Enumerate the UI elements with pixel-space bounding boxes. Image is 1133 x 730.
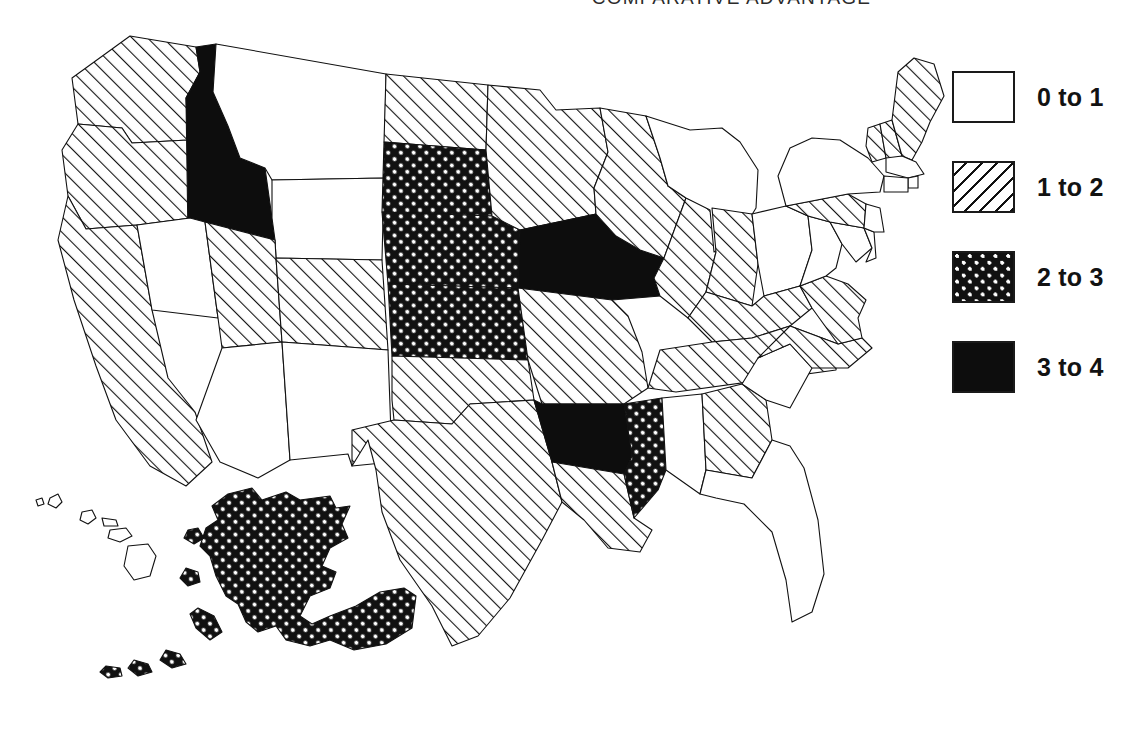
state-ks[interactable] xyxy=(388,284,528,360)
state-mo[interactable] xyxy=(518,288,648,404)
state-ak-aleutians-3[interactable] xyxy=(128,660,152,676)
map-legend: 0 to 1 1 to 2 2 to 3 3 to 4 xyxy=(952,52,1133,412)
legend-label-1: 1 to 2 xyxy=(1037,173,1104,202)
state-hi-big-island[interactable] xyxy=(124,544,156,580)
legend-label-3: 3 to 4 xyxy=(1037,353,1104,382)
legend-swatch-crosshatch xyxy=(952,251,1015,303)
state-ma[interactable] xyxy=(886,156,924,178)
state-me[interactable] xyxy=(892,58,944,160)
state-ut[interactable] xyxy=(205,222,282,348)
state-ak-aleutians-5[interactable] xyxy=(180,568,200,586)
state-co[interactable] xyxy=(276,258,388,350)
state-hi-kauai[interactable] xyxy=(48,494,62,508)
state-sd[interactable] xyxy=(382,142,492,216)
state-nd[interactable] xyxy=(384,74,488,150)
state-hi-maui[interactable] xyxy=(108,528,132,542)
legend-item-0[interactable]: 0 to 1 xyxy=(952,52,1133,142)
state-ne[interactable] xyxy=(382,212,520,288)
legend-item-3[interactable]: 3 to 4 xyxy=(952,322,1133,412)
legend-item-1[interactable]: 1 to 2 xyxy=(952,142,1133,232)
legend-item-2[interactable]: 2 to 3 xyxy=(952,232,1133,322)
state-mn[interactable] xyxy=(486,85,608,230)
choropleth-map xyxy=(0,0,960,730)
legend-swatch-solid xyxy=(952,341,1015,393)
state-ak-aleutians-1[interactable] xyxy=(190,608,222,640)
legend-swatch-diagonal xyxy=(952,161,1015,213)
state-hi-oahu[interactable] xyxy=(80,510,96,524)
state-ct[interactable] xyxy=(884,176,908,192)
state-ak-aleutians-4[interactable] xyxy=(100,666,122,678)
state-ak-aleutians-2[interactable] xyxy=(160,650,186,668)
legend-swatch-blank xyxy=(952,71,1015,123)
state-wy[interactable] xyxy=(272,178,384,260)
state-hi-molokai[interactable] xyxy=(102,518,118,526)
state-nj[interactable] xyxy=(864,204,884,232)
states-layer xyxy=(36,36,944,678)
legend-label-2: 2 to 3 xyxy=(1037,263,1104,292)
state-ri[interactable] xyxy=(908,176,918,188)
state-hi-dot[interactable] xyxy=(36,498,44,506)
map-svg xyxy=(0,0,960,730)
legend-label-0: 0 to 1 xyxy=(1037,83,1104,112)
state-al[interactable] xyxy=(662,394,706,494)
